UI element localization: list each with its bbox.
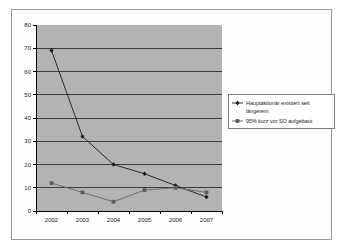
legend-marker-square-icon: [236, 119, 240, 123]
x-label-2002: 2002: [45, 217, 59, 223]
y-label-70: 70: [24, 45, 31, 51]
chart-legend[interactable]: Hauptaktionär existiert seit längerem 95…: [228, 94, 334, 128]
data-point: [174, 186, 178, 190]
data-point: [81, 191, 85, 195]
y-label-0: 0: [28, 208, 32, 214]
data-point: [143, 188, 147, 192]
y-label-40: 40: [24, 115, 31, 121]
line-chart: 80 70 60 50 40 30 20 10 0 2002 2003 2004…: [0, 0, 344, 251]
y-label-20: 20: [24, 162, 31, 168]
y-label-80: 80: [24, 22, 31, 28]
data-point: [205, 191, 209, 195]
y-label-50: 50: [24, 92, 31, 98]
legend-label-1-line2: längerem: [246, 108, 269, 114]
legend-label-1-line1: Hauptaktionär existiert seit: [246, 100, 310, 106]
y-label-30: 30: [24, 138, 31, 144]
x-label-2007: 2007: [200, 217, 214, 223]
chart-page: 80 70 60 50 40 30 20 10 0 2002 2003 2004…: [0, 0, 344, 251]
x-label-2004: 2004: [107, 217, 121, 223]
y-label-60: 60: [24, 69, 31, 75]
x-axis-labels: 2002 2003 2004 2005 2006 2007: [45, 217, 214, 223]
y-label-10: 10: [24, 185, 31, 191]
legend-label-2-line1: 95% kurz vor SO aufgebaut: [246, 118, 313, 124]
x-label-2006: 2006: [169, 217, 183, 223]
y-axis-labels: 80 70 60 50 40 30 20 10 0: [24, 22, 31, 214]
x-label-2003: 2003: [76, 217, 90, 223]
data-point: [112, 200, 116, 204]
data-point: [50, 181, 54, 185]
x-label-2005: 2005: [138, 217, 152, 223]
